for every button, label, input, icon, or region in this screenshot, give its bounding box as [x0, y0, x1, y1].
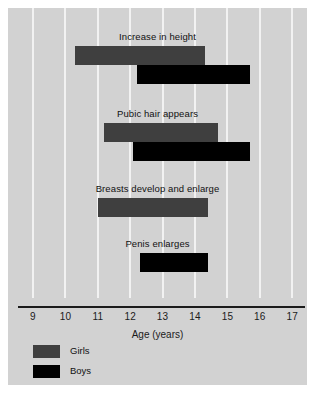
legend-swatch-boys: [33, 365, 60, 378]
x-tick-label-11: 11: [86, 311, 110, 322]
bar-girls: [75, 46, 205, 65]
x-axis-title: Age (years): [8, 329, 307, 340]
x-tick-label-15: 15: [215, 311, 239, 322]
x-tick-label-12: 12: [118, 311, 142, 322]
x-tick-label-9: 9: [21, 311, 45, 322]
group-label: Penis enlarges: [8, 238, 307, 249]
legend-label-boys: Boys: [70, 365, 91, 376]
gridline-16: [259, 8, 261, 298]
x-tick-label-13: 13: [151, 311, 175, 322]
x-tick-label-10: 10: [53, 311, 77, 322]
bar-boys: [137, 65, 250, 84]
gridline-17: [291, 8, 293, 298]
legend-label-girls: Girls: [70, 345, 90, 356]
x-tick-label-17: 17: [280, 311, 304, 322]
gridline-9: [32, 8, 34, 298]
bar-boys: [140, 253, 208, 272]
bar-boys: [133, 142, 250, 161]
chart-panel: Increase in heightPubic hair appearsBrea…: [8, 8, 307, 385]
x-tick-label-14: 14: [183, 311, 207, 322]
group-label: Breasts develop and enlarge: [8, 183, 307, 194]
x-tick-label-16: 16: [248, 311, 272, 322]
gridline-10: [64, 8, 66, 298]
bar-girls: [98, 198, 208, 217]
x-axis-line: [18, 306, 305, 308]
group-label: Increase in height: [8, 31, 307, 42]
group-label: Pubic hair appears: [8, 108, 307, 119]
chart-figure: Increase in heightPubic hair appearsBrea…: [0, 0, 318, 395]
legend-swatch-girls: [33, 345, 60, 358]
bar-girls: [104, 123, 217, 142]
